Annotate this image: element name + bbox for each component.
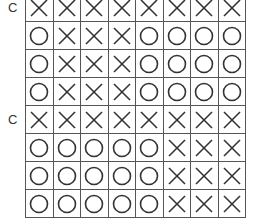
grid-cell <box>191 78 219 106</box>
cross-icon <box>222 166 242 186</box>
grid-cell <box>26 190 54 218</box>
cross-icon <box>29 0 49 18</box>
grid-cell <box>81 190 109 218</box>
circle-icon <box>167 82 187 102</box>
cross-icon <box>57 110 77 130</box>
cross-icon <box>112 82 132 102</box>
cross-icon <box>222 138 242 158</box>
grid-cell <box>136 22 164 50</box>
cross-icon <box>194 110 214 130</box>
grid-cell <box>164 0 192 22</box>
cross-icon <box>112 110 132 130</box>
grid-cell <box>219 106 247 134</box>
circle-icon <box>194 26 214 46</box>
grid-row <box>26 50 246 78</box>
grid-cell <box>109 0 137 22</box>
grid-cell <box>136 190 164 218</box>
grid-cell <box>164 134 192 162</box>
cross-icon <box>84 0 104 18</box>
grid-cell <box>54 50 82 78</box>
grid-cell <box>109 162 137 190</box>
cross-icon <box>57 54 77 74</box>
grid-cell <box>26 22 54 50</box>
grid-cell <box>26 78 54 106</box>
circle-icon <box>29 138 49 158</box>
circle-icon <box>112 138 132 158</box>
grid-cell <box>164 78 192 106</box>
cross-icon <box>167 110 187 130</box>
grid-cell <box>191 22 219 50</box>
circle-icon <box>139 138 159 158</box>
circle-icon <box>29 194 49 214</box>
cross-icon <box>112 0 132 18</box>
grid-row <box>26 0 246 22</box>
grid-cell <box>219 0 247 22</box>
circle-icon <box>194 54 214 74</box>
grid-cell <box>191 162 219 190</box>
circle-icon <box>112 194 132 214</box>
circle-icon <box>139 82 159 102</box>
cross-icon <box>112 26 132 46</box>
grid-cell <box>81 22 109 50</box>
grid-cell <box>219 50 247 78</box>
xo-grid <box>25 0 246 218</box>
grid-row <box>26 106 246 134</box>
row-label: C <box>8 112 20 127</box>
row-label: C <box>8 0 20 15</box>
grid-row <box>26 134 246 162</box>
grid-cell <box>54 22 82 50</box>
circle-icon <box>139 166 159 186</box>
circle-icon <box>167 26 187 46</box>
cross-icon <box>139 110 159 130</box>
cross-icon <box>222 194 242 214</box>
cross-icon <box>84 110 104 130</box>
grid-cell <box>54 190 82 218</box>
grid-cell <box>109 50 137 78</box>
circle-icon <box>57 166 77 186</box>
grid-cell <box>219 22 247 50</box>
circle-icon <box>222 82 242 102</box>
circle-icon <box>222 26 242 46</box>
cross-icon <box>84 26 104 46</box>
cross-icon <box>222 0 242 18</box>
grid-cell <box>219 134 247 162</box>
circle-icon <box>29 54 49 74</box>
grid-cell <box>26 134 54 162</box>
grid-cell <box>164 22 192 50</box>
grid-row <box>26 22 246 50</box>
grid-row <box>26 162 246 190</box>
circle-icon <box>57 194 77 214</box>
grid-cell <box>54 78 82 106</box>
grid-cell <box>81 50 109 78</box>
grid-cell <box>54 0 82 22</box>
grid-cell <box>219 162 247 190</box>
grid-cell <box>164 190 192 218</box>
cross-icon <box>167 194 187 214</box>
grid-row <box>26 78 246 106</box>
cross-icon <box>112 54 132 74</box>
grid-cell <box>26 162 54 190</box>
cross-icon <box>167 138 187 158</box>
grid-cell <box>81 78 109 106</box>
grid-cell <box>164 162 192 190</box>
cross-icon <box>84 54 104 74</box>
grid-cell <box>219 190 247 218</box>
circle-icon <box>139 54 159 74</box>
grid-row <box>26 190 246 218</box>
circle-icon <box>194 82 214 102</box>
grid-cell <box>191 190 219 218</box>
grid-cell <box>81 0 109 22</box>
cross-icon <box>57 82 77 102</box>
cross-icon <box>167 0 187 18</box>
circle-icon <box>29 82 49 102</box>
cross-icon <box>84 82 104 102</box>
grid-cell <box>54 106 82 134</box>
grid-cell <box>191 0 219 22</box>
cross-icon <box>222 110 242 130</box>
circle-icon <box>84 138 104 158</box>
grid-cell <box>164 106 192 134</box>
cross-icon <box>194 194 214 214</box>
grid-cell <box>136 134 164 162</box>
cross-icon <box>194 0 214 18</box>
grid-cell <box>109 106 137 134</box>
